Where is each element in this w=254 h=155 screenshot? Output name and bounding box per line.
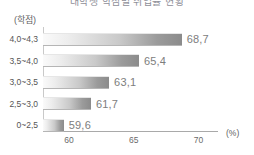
bar-value-label: 63,1 bbox=[114, 76, 136, 88]
x-axis-tick-label: 60 bbox=[64, 135, 73, 145]
category-label: 3,5~4,0 bbox=[9, 56, 38, 66]
category-label: 0~2,5 bbox=[16, 120, 38, 130]
bar bbox=[43, 97, 91, 110]
category-label: 4,0~4,3 bbox=[9, 34, 38, 44]
y-axis-unit-label: (학점) bbox=[14, 13, 36, 26]
x-axis-unit-label: (%) bbox=[226, 128, 239, 138]
category-label: 2,5~3,0 bbox=[9, 99, 38, 109]
bar-row: 3,0~3,563,1 bbox=[43, 76, 218, 89]
bar-row: 3,5~4,065,4 bbox=[43, 54, 218, 67]
bar-row: 0~2,559,6 bbox=[43, 119, 218, 132]
x-axis-tick-label: 70 bbox=[194, 135, 203, 145]
bar bbox=[43, 33, 182, 46]
category-label: 3,0~3,5 bbox=[9, 77, 38, 87]
bar-value-label: 59,6 bbox=[69, 119, 91, 131]
bar bbox=[43, 119, 64, 132]
bar-value-label: 61,7 bbox=[96, 98, 118, 110]
bar-chart: 대학생 학점별 취업률 현황 (학점) (%) 4,0~4,368,73,5~4… bbox=[0, 0, 254, 155]
bar-value-label: 68,7 bbox=[187, 33, 209, 45]
chart-title-text: 대학생 학점별 취업률 현황 bbox=[70, 0, 184, 8]
bar bbox=[43, 54, 139, 67]
bar-row: 4,0~4,368,7 bbox=[43, 33, 218, 46]
plot-area: 4,0~4,368,73,5~4,065,43,0~3,563,12,5~3,0… bbox=[43, 27, 218, 132]
chart-title-cropped: 대학생 학점별 취업률 현황 bbox=[0, 0, 254, 8]
bar bbox=[43, 76, 109, 89]
x-axis-tick-label: 65 bbox=[129, 135, 138, 145]
bar-value-label: 65,4 bbox=[144, 55, 166, 67]
bar-row: 2,5~3,061,7 bbox=[43, 97, 218, 110]
